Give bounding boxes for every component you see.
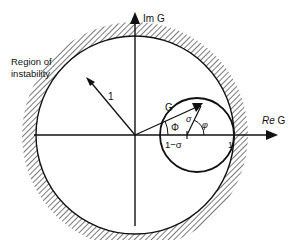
Phi-label: Φ <box>171 122 179 133</box>
real-axis-label: Re G <box>262 115 286 126</box>
one-minus-sigma-label: 1−σ <box>165 139 182 150</box>
sigma-label: σ <box>186 114 192 124</box>
region-label-line1: Region of <box>11 56 52 67</box>
gain-vector-label: G <box>165 102 173 113</box>
unit-radius-label: 1 <box>108 91 114 102</box>
region-label-line2: instability <box>11 68 50 79</box>
unit-tick-label: 1 <box>228 140 233 150</box>
phi-label: φ <box>202 120 208 130</box>
imaginary-axis-label: Im G <box>143 13 165 24</box>
instability-region-hatching <box>0 0 297 240</box>
stability-diagram: Im G Re G Region of instability 1 G Φ σ … <box>0 0 297 240</box>
